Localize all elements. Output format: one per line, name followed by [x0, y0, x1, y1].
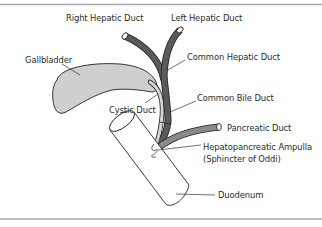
duodenum-shape — [106, 107, 189, 205]
label-cystic-duct: Cystic Duct — [109, 105, 156, 115]
biliary-anatomy-diagram: Right Hepatic Duct Left Hepatic Duct Gal… — [0, 0, 322, 227]
leader-common-bile — [170, 101, 196, 112]
label-ampulla: Hepatopancreatic Ampulla — [203, 142, 312, 152]
leader-duodenum — [176, 194, 215, 195]
label-common-hepatic-duct: Common Hepatic Duct — [187, 52, 281, 62]
label-common-bile-duct: Common Bile Duct — [197, 93, 274, 103]
label-pancreatic-duct: Pancreatic Duct — [227, 123, 292, 133]
leader-cystic — [145, 94, 158, 103]
label-left-hepatic-duct: Left Hepatic Duct — [171, 13, 243, 23]
leader-common-hepatic — [168, 60, 185, 70]
label-right-hepatic-duct: Right Hepatic Duct — [66, 13, 144, 23]
label-gallbladder: Gallbladder — [25, 55, 73, 65]
left-hepatic-duct-shape — [164, 26, 184, 80]
label-duodenum: Duodenum — [218, 190, 263, 200]
label-sphincter-of-oddi: (Sphincter of Oddi) — [203, 154, 281, 164]
